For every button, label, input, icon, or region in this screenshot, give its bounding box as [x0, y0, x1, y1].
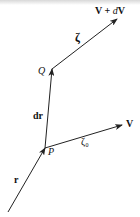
vector-dr — [45, 69, 52, 148]
label-plus: + — [102, 5, 113, 16]
label-v-bold-1: V — [95, 5, 102, 16]
label-v-bold-2: V — [118, 5, 125, 16]
label-zeta0: ζ₀ — [81, 137, 89, 147]
label-q: Q — [38, 66, 45, 76]
label-zeta: ζ — [75, 32, 80, 44]
label-v: V — [126, 119, 133, 129]
label-v-plus-dv: V + dV — [95, 6, 125, 16]
vector-lines — [0, 0, 140, 217]
label-dr: dr — [33, 111, 43, 121]
label-p: P — [48, 147, 54, 157]
vector-zeta — [52, 19, 117, 69]
label-r: r — [14, 175, 18, 185]
vector-diagram: V + dV ζ Q dr P ζ₀ V r — [0, 0, 140, 217]
